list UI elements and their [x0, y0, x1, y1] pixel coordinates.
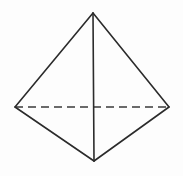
- edge-left-front: [15, 107, 94, 161]
- edge-apex-right: [93, 13, 169, 107]
- tetrahedron-svg: [0, 0, 183, 176]
- face-left: [15, 13, 94, 161]
- edge-apex-front: [93, 13, 94, 161]
- edge-right-front: [94, 107, 169, 161]
- face-right: [93, 13, 169, 161]
- edge-apex-left: [15, 13, 93, 107]
- figure-canvas: [0, 0, 183, 176]
